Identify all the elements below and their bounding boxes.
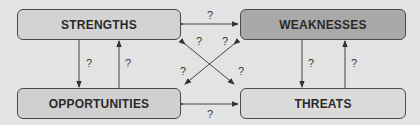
label-opportunities-threats: ? bbox=[207, 108, 213, 120]
label-weaknesses-to-threats: ? bbox=[308, 57, 314, 69]
opportunities-label: OPPORTUNITIES bbox=[49, 97, 150, 111]
opportunities-box: OPPORTUNITIES bbox=[17, 88, 181, 119]
label-strengths-threats-end: ? bbox=[238, 65, 244, 77]
strengths-label: STRENGTHS bbox=[61, 18, 137, 32]
label-threats-to-weaknesses: ? bbox=[351, 57, 357, 69]
strengths-box: STRENGTHS bbox=[17, 9, 181, 40]
label-opportunities-to-strengths: ? bbox=[125, 57, 131, 69]
label-weaknesses-opportunities-start: ? bbox=[222, 35, 228, 47]
label-strengths-to-opportunities: ? bbox=[86, 57, 92, 69]
threats-label: THREATS bbox=[294, 97, 351, 111]
label-strengths-threats-start: ? bbox=[196, 35, 202, 47]
label-weaknesses-opportunities-end: ? bbox=[180, 65, 186, 77]
label-strengths-weaknesses: ? bbox=[207, 9, 213, 21]
threats-box: THREATS bbox=[240, 88, 406, 119]
swot-diagram: ? ? ? ? ? ? ? ? ? ? STRENGTHS WEAKNESSES… bbox=[0, 0, 420, 125]
weaknesses-label: WEAKNESSES bbox=[279, 18, 366, 32]
weaknesses-box: WEAKNESSES bbox=[240, 9, 406, 40]
